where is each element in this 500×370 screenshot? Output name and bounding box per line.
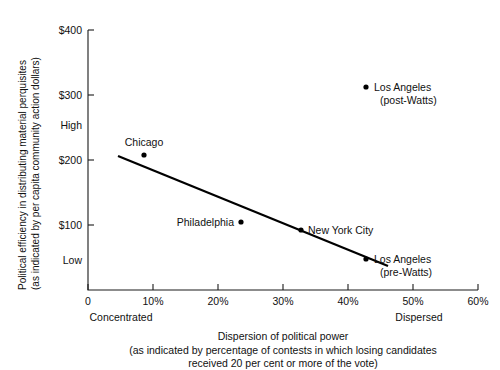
y-qualitative-low: Low bbox=[63, 254, 83, 266]
x-tick-label-30: 30% bbox=[272, 295, 293, 307]
data-label-los-angeles-post-watts: Los Angeles bbox=[374, 81, 431, 93]
x-tick-label-50: 50% bbox=[402, 295, 423, 307]
data-label-los-angeles-pre-watts-sub: (pre-Watts) bbox=[380, 266, 432, 278]
y-axis-title-line2: (as indicated by per capita community ac… bbox=[30, 57, 41, 290]
y-tick-label-200: $200 bbox=[59, 154, 83, 166]
data-label-chicago: Chicago bbox=[125, 136, 164, 148]
x-qualitative-concentrated: Concentrated bbox=[89, 311, 152, 323]
y-qualitative-high: High bbox=[60, 119, 82, 131]
data-label-los-angeles-pre-watts: Los Angeles bbox=[374, 253, 431, 265]
x-tick-label-60: 60% bbox=[467, 295, 488, 307]
chart-figure: $400 $300 $200 $100 High Low 0 10% 20% 3… bbox=[0, 0, 500, 370]
x-axis-title: Dispersion of political power bbox=[218, 330, 349, 342]
y-tick-label-100: $100 bbox=[59, 219, 83, 231]
x-axis-subtitle-line1: (as indicated by percentage of contests … bbox=[129, 344, 437, 356]
x-axis-subtitle-line2: received 20 per cent or more of the vote… bbox=[188, 357, 378, 369]
data-point-new-york-city bbox=[298, 227, 303, 232]
x-tick-label-20: 20% bbox=[207, 295, 228, 307]
data-label-philadelphia: Philadelphia bbox=[177, 216, 234, 228]
y-axis-title-line1: Political efficiency in distributing mat… bbox=[17, 60, 28, 290]
axis-lines bbox=[88, 30, 478, 290]
x-tick-label-40: 40% bbox=[337, 295, 358, 307]
x-qualitative-dispersed: Dispersed bbox=[395, 311, 442, 323]
data-point-los-angeles-post-watts bbox=[363, 84, 368, 89]
x-tick-marks bbox=[88, 284, 478, 290]
scatter-plot: $400 $300 $200 $100 High Low 0 10% 20% 3… bbox=[0, 0, 500, 370]
x-tick-label-0: 0 bbox=[85, 295, 91, 307]
y-tick-marks bbox=[88, 30, 94, 225]
trend-line bbox=[118, 156, 388, 266]
data-point-los-angeles-pre-watts bbox=[363, 256, 368, 261]
data-label-los-angeles-post-watts-sub: (post-Watts) bbox=[380, 94, 437, 106]
data-point-philadelphia bbox=[238, 219, 243, 224]
y-tick-label-400: $400 bbox=[59, 24, 83, 36]
y-tick-label-300: $300 bbox=[59, 89, 83, 101]
data-point-chicago bbox=[141, 152, 146, 157]
data-label-new-york-city: New York City bbox=[308, 224, 374, 236]
x-tick-label-10: 10% bbox=[142, 295, 163, 307]
